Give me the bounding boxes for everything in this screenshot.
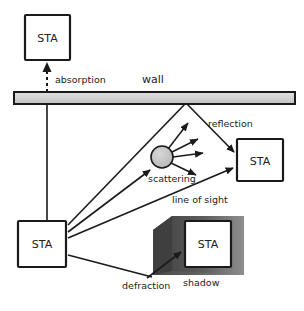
label-scattering: scattering (148, 173, 196, 184)
absorption-arrow (43, 62, 52, 92)
defraction-incident-ray (68, 255, 152, 277)
label-shadow: shadow (183, 277, 220, 288)
propagation-diagram: STA STA STA STA absorption wall reflecti… (0, 0, 304, 311)
wall-rect (14, 92, 295, 104)
label-line-of-sight: line of sight (172, 194, 228, 205)
label-reflection: reflection (208, 118, 253, 129)
wall-bar (14, 92, 295, 104)
sta-node-right[interactable]: STA (237, 139, 283, 181)
scatterer-circle (151, 146, 173, 168)
label-absorption: absorption (55, 74, 106, 85)
label-wall: wall (142, 73, 164, 86)
scattering-incident-ray (68, 170, 150, 232)
absorption-arrowhead (43, 62, 52, 72)
sta-node-top[interactable]: STA (25, 15, 70, 60)
sta-node-shadow[interactable]: STA (185, 221, 231, 267)
sta-right-label: STA (250, 155, 271, 168)
diagram-canvas: STA STA STA STA absorption wall reflecti… (0, 0, 304, 311)
sta-shadow-label: STA (198, 238, 219, 251)
sta-node-source[interactable]: STA (18, 221, 66, 267)
scatter-ray-2 (172, 139, 198, 152)
sta-source-label: STA (32, 238, 53, 251)
scatter-ray-3 (173, 153, 203, 157)
label-defraction: defraction (122, 280, 170, 291)
sta-top-label: STA (37, 32, 58, 45)
